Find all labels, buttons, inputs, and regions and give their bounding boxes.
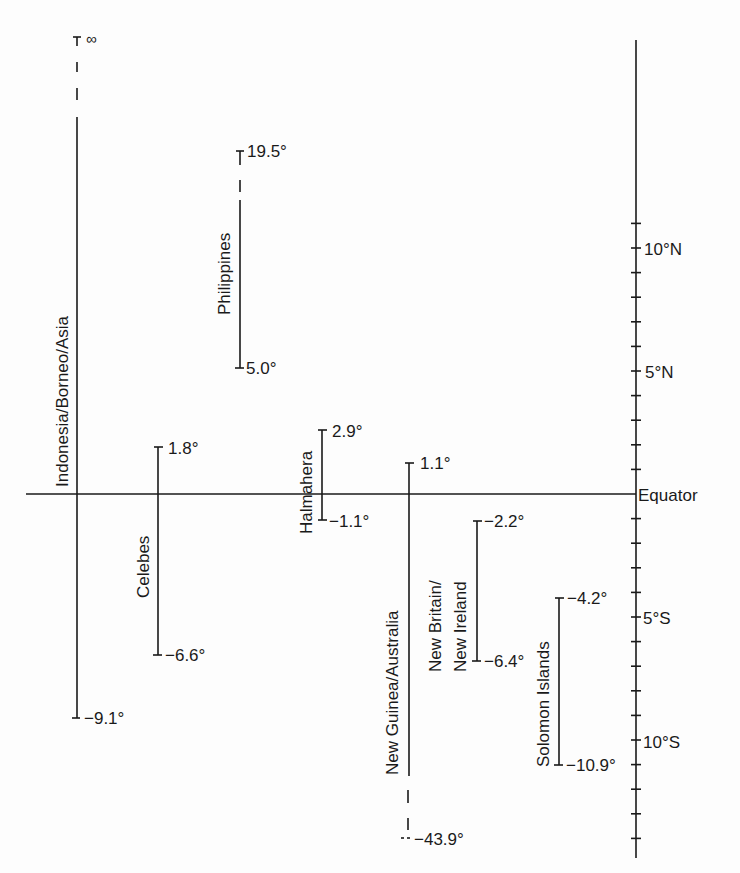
- new-britain-bottom-label: −6.4°: [484, 652, 524, 671]
- new-britain-name-line1: New Britain/: [426, 580, 445, 672]
- celebes-top-label: 1.8°: [168, 439, 198, 458]
- celebes-name: Celebes: [134, 536, 153, 598]
- new-britain-name-line2: New Ireland: [451, 581, 470, 672]
- new-guinea-bottom-label: −43.9°: [414, 830, 464, 849]
- range-bar-indonesia: [72, 37, 81, 718]
- solomon-top-label: −4.2°: [567, 589, 607, 608]
- scale-label-10n: 10°N: [644, 240, 682, 259]
- solomon-name: Solomon Islands: [534, 641, 553, 767]
- celebes-bottom-label: −6.6°: [165, 646, 205, 665]
- new-guinea-top-label: 1.1°: [420, 454, 450, 473]
- philippines-name: Philippines: [215, 233, 234, 315]
- range-bar-halmahera: [318, 430, 327, 520]
- new-guinea-name: New Guinea/Australia: [383, 610, 402, 775]
- halmahera-top-label: 2.9°: [332, 422, 362, 441]
- new-britain-top-label: −2.2°: [484, 512, 524, 531]
- halmahera-bottom-label: −1.1°: [329, 512, 369, 531]
- scale-label-5n: 5°N: [645, 363, 674, 382]
- halmahera-name: Halmahera: [297, 450, 316, 534]
- range-bar-solomon: [554, 598, 564, 765]
- range-bar-new-guinea: [401, 463, 414, 838]
- scale-label-5s: 5°S: [643, 609, 671, 628]
- indonesia-top-label: ∞: [86, 30, 97, 47]
- philippines-top-label: 19.5°: [247, 142, 287, 161]
- range-bar-philippines: [235, 151, 244, 368]
- scale-label-10s: 10°S: [643, 733, 680, 752]
- philippines-bottom-label: 5.0°: [246, 359, 276, 378]
- equator-label: Equator: [638, 486, 698, 505]
- range-bar-celebes: [153, 447, 163, 655]
- indonesia-bottom-label: −9.1°: [84, 709, 124, 728]
- latitude-diagram: 10°N 5°N Equator 5°S 10°S ∞ −9.1° 19.5° …: [0, 0, 740, 873]
- indonesia-name: Indonesia/Borneo/Asia: [53, 315, 72, 487]
- range-bar-new-britain: [472, 521, 482, 661]
- solomon-bottom-label: −10.9°: [566, 756, 616, 775]
